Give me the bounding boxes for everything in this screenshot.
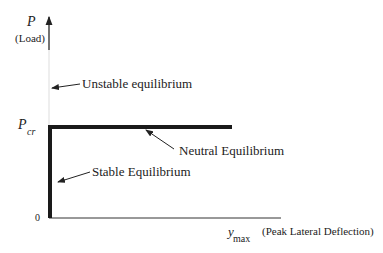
x-axis-subscript: max	[233, 233, 250, 244]
origin-label: 0	[35, 212, 40, 223]
y-axis-label: (Load)	[15, 32, 45, 44]
y-axis-symbol: P	[27, 14, 36, 30]
stable-label: Stable Equilibrium	[92, 164, 191, 180]
neutral-arrow	[146, 130, 174, 149]
pcr-subscript: cr	[27, 126, 35, 137]
unstable-arrow	[52, 84, 80, 88]
stable-arrow	[58, 172, 90, 182]
pcr-symbol: P	[18, 117, 27, 133]
unstable-label: Unstable equilibrium	[82, 76, 192, 92]
neutral-label: Neutral Equilibrium	[179, 143, 284, 159]
x-axis-label: (Peak Lateral Deflection)	[262, 225, 374, 237]
buckling-diagram	[0, 0, 383, 253]
